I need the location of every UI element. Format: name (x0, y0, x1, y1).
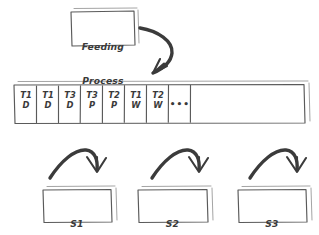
queue-cell-5-state: W (125, 100, 147, 110)
queue-cell-2-state: D (59, 100, 81, 110)
feeding-process-line2: Process (71, 75, 135, 86)
feeding-process-line1: Feeding (71, 41, 135, 52)
queue-to-s3-arrow (250, 150, 306, 178)
queue-cell-3: T3 P (81, 90, 103, 110)
consumer-s1-label: S1 handles T1 (43, 196, 111, 235)
queue-cell-5: T1 W (125, 90, 147, 110)
queue-cell-1-state: D (37, 100, 59, 110)
queue-cell-4: T2 P (103, 90, 125, 110)
queue-cell-2-type: T3 (59, 90, 81, 100)
queue-cell-0-state: D (15, 100, 37, 110)
queue-cell-4-type: T2 (103, 90, 125, 100)
queue-cell-6: T2 W (147, 90, 169, 110)
queue-cell-0: T1 D (15, 90, 37, 110)
queue-cell-6-state: W (147, 100, 169, 110)
queue-cell-4-state: P (103, 100, 125, 110)
queue-cell-3-type: T3 (81, 90, 103, 100)
queue-cell-3-state: P (81, 100, 103, 110)
queue-to-s2-arrow (152, 150, 208, 178)
consumer-s1-line1: S1 (43, 218, 111, 229)
queue-ellipsis: ••• (169, 99, 191, 109)
queue-cell-1-type: T1 (37, 90, 59, 100)
consumer-s2-line1: S2 (138, 218, 207, 229)
queue-cell-5-type: T1 (125, 90, 147, 100)
queue-cell-0-type: T1 (15, 90, 37, 100)
queue-to-s1-arrow (50, 150, 106, 178)
queue-cell-6-type: T2 (147, 90, 169, 100)
queue-cell-1: T1 D (37, 90, 59, 110)
feed-into-queue-arrow (140, 28, 172, 73)
consumer-s2-label: S2 handles T2 (138, 196, 207, 235)
consumer-s3-line1: S3 (238, 218, 306, 229)
consumer-s3-label: S3 handles T3 (238, 196, 306, 235)
diagram-canvas: Feeding Process T1 D T1 D T3 D T3 P T2 P… (0, 0, 319, 235)
queue-cell-2: T3 D (59, 90, 81, 110)
